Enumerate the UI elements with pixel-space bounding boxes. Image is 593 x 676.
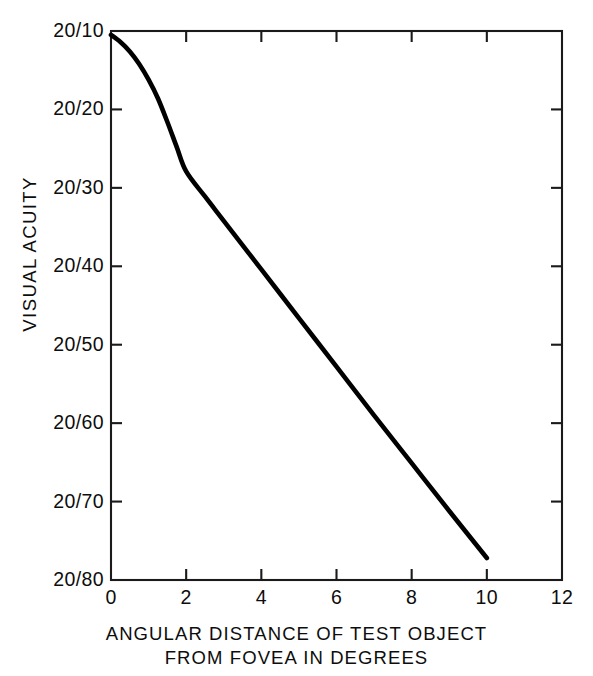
y-tick-label: 20/30 <box>53 178 104 198</box>
x-axis-ticks <box>186 31 487 580</box>
x-axis-tick-labels: 024681012 <box>0 588 593 618</box>
visual-acuity-chart-figure: 20/1020/2020/3020/4020/5020/6020/7020/80… <box>0 0 593 676</box>
y-axis-title: VISUAL ACUITY <box>19 154 41 354</box>
x-axis-title-line-1: ANGULAR DISTANCE OF TEST OBJECT <box>0 622 593 646</box>
x-tick-label: 8 <box>406 588 417 608</box>
x-tick-label: 10 <box>476 588 499 608</box>
axis-frame-box <box>111 31 562 580</box>
y-axis-ticks <box>111 109 562 501</box>
y-tick-label: 20/60 <box>53 413 104 433</box>
y-tick-label: 20/50 <box>53 335 104 355</box>
y-tick-label: 20/40 <box>53 256 104 276</box>
y-tick-label: 20/70 <box>53 492 104 512</box>
x-axis-title: ANGULAR DISTANCE OF TEST OBJECT FROM FOV… <box>0 622 593 671</box>
y-axis-tick-labels: 20/1020/2020/3020/4020/5020/6020/7020/80 <box>0 0 104 676</box>
data-series-line <box>111 35 487 558</box>
x-tick-label: 2 <box>181 588 192 608</box>
x-tick-label: 12 <box>551 588 574 608</box>
x-axis-title-line-2: FROM FOVEA IN DEGREES <box>0 646 593 670</box>
y-tick-label: 20/20 <box>53 99 104 119</box>
x-tick-label: 4 <box>256 588 267 608</box>
y-tick-label: 20/80 <box>53 570 104 590</box>
x-tick-label: 0 <box>105 588 116 608</box>
x-tick-label: 6 <box>331 588 342 608</box>
y-tick-label: 20/10 <box>53 21 104 41</box>
